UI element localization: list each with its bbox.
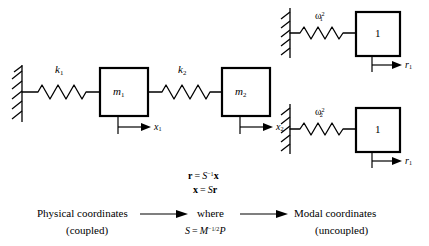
modal-mass-2-label: 1 — [375, 124, 381, 135]
flow-arrow-left — [140, 210, 188, 218]
modal-coordinates-label: Modal coordinates — [294, 208, 376, 219]
spring-k1-label: k1 — [55, 64, 63, 76]
modal-block-1-group — [281, 8, 402, 72]
modal-coordinates-sublabel: (uncoupled) — [315, 225, 368, 236]
mechanical-system-figure: k1 k2 m1 m2 x1 x2 ω21 ω22 1 1 r1 r1 r = … — [0, 0, 429, 246]
equation-r-equals: r = S−1x — [188, 171, 219, 181]
equation-s-equals: S = M−1/2P — [185, 226, 226, 236]
spring-omega2 — [290, 123, 356, 135]
displacement-x1-label: x1 — [154, 122, 162, 133]
mass-m1-label: m1 — [113, 86, 124, 98]
modal-spring-2-label: ω22 — [315, 107, 323, 118]
modal-spring-1-label: ω21 — [315, 11, 323, 22]
flow-arrow-right — [240, 210, 288, 218]
displacement-marker-r1-bottom — [372, 152, 402, 168]
displacement-marker-r1-top — [372, 56, 402, 72]
where-label: where — [197, 208, 224, 219]
equation-x-equals: x = Sr — [193, 185, 217, 195]
displacement-marker-x2 — [240, 116, 273, 134]
physical-system-group — [12, 65, 273, 134]
modal-block-2-group — [281, 104, 402, 168]
spring-k2 — [148, 85, 222, 99]
displacement-marker-x1 — [118, 116, 151, 134]
wall-left — [12, 65, 22, 122]
wall-mode1 — [281, 8, 290, 58]
physical-coordinates-label: Physical coordinates — [37, 208, 128, 219]
mass-m2-label: m2 — [235, 86, 246, 98]
spring-omega1 — [290, 27, 356, 39]
spring-k1 — [22, 85, 100, 99]
displacement-x2-label: x2 — [276, 122, 284, 133]
modal-displacement-2-label: r1 — [405, 156, 412, 167]
modal-mass-1-label: 1 — [375, 28, 381, 39]
physical-coordinates-sublabel: (coupled) — [66, 225, 108, 236]
modal-displacement-1-label: r1 — [405, 60, 412, 71]
spring-k2-label: k2 — [178, 64, 186, 76]
